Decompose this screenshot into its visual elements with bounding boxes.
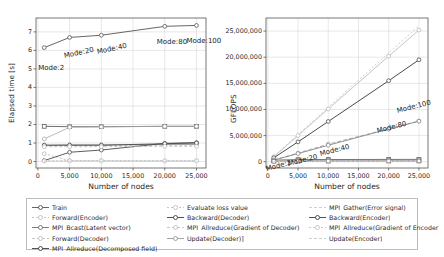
legend-item[interactable]: MPI_Allreduce(Gradient of Encoder) [309, 223, 439, 233]
legend-line-marker-icon [309, 203, 326, 212]
mode-annotation: Mode:80 [157, 38, 187, 46]
data-point [195, 144, 199, 148]
mode-annotation: Mode:100 [186, 37, 221, 45]
data-point [387, 79, 391, 83]
data-point [68, 125, 72, 129]
y-tick-label: 6 [0, 46, 32, 54]
legend-item[interactable]: MPI_Allreduce(Gradient of Decoder) [167, 223, 315, 233]
data-point [417, 58, 421, 62]
legend-item[interactable]: Update(Decoder)] [167, 233, 315, 243]
legend-line-marker-icon [32, 203, 49, 212]
legend-line-marker-icon [309, 234, 326, 243]
y-tick-label: 1 [0, 139, 32, 147]
y-tick-label: 5,000,000 [222, 132, 262, 140]
legend-line-marker-icon [167, 223, 184, 232]
y-tick-label: 20,000,000 [222, 53, 262, 61]
y-tick-label: 2 [0, 120, 32, 128]
y-tick-label: 0 [222, 158, 262, 166]
series-line [44, 126, 196, 139]
y-tick-label: 10,000,000 [222, 105, 262, 113]
legend-line-marker-icon [167, 213, 184, 222]
data-point [195, 124, 199, 128]
legend-item[interactable]: Forward(Decoder) [32, 233, 172, 243]
legend-line-marker-icon [309, 213, 326, 222]
legend-item[interactable]: MPI_Allreduce(Decomposed field) [32, 244, 172, 254]
legend-line-marker-icon [309, 223, 326, 232]
y-tick-label: 5 [0, 65, 32, 73]
data-point [417, 28, 421, 32]
legend-line-marker-icon [167, 203, 184, 212]
data-point [195, 24, 199, 28]
legend-label: MPI_Allreduce(Decomposed field) [52, 245, 157, 252]
data-point [163, 24, 167, 28]
legend-label: MPI_Allreduce(Gradient of Decoder) [187, 224, 300, 231]
legend-label: MPI_Allreduce(Gradient of Encoder) [329, 224, 439, 231]
y-tick-label: 25,000,000 [222, 27, 262, 35]
legend-label: MPI_Bcast(Latent vector) [52, 224, 131, 231]
legend-line-marker-icon [32, 234, 49, 243]
legend-label: Forward(Encoder) [52, 214, 108, 221]
legend-label: Evaluate loss value [187, 204, 248, 211]
series-line [274, 30, 419, 157]
data-point [42, 124, 46, 128]
legend-line-marker-icon [32, 213, 49, 222]
legend-column: TrainForward(Encoder)MPI_Bcast(Latent ve… [32, 202, 172, 254]
legend-item[interactable]: Update(Encoder) [309, 233, 439, 243]
legend-column: Evaluate loss valueBackward(Decoder)MPI_… [167, 202, 315, 244]
legend-line-marker-icon [32, 244, 49, 253]
data-point [99, 145, 103, 149]
panel-gflops: GFLOPS Number of nodes 05,000,00010,000,… [222, 0, 444, 200]
data-point [163, 144, 167, 148]
legend-label: Forward(Decoder) [52, 235, 109, 242]
legend-item[interactable]: Backward(Encoder) [309, 212, 439, 222]
data-point [68, 36, 72, 40]
legend-label: Train [52, 204, 67, 211]
legend-column: MPI_Gather(Error signal)Backward(Encoder… [309, 202, 439, 244]
legend-label: Update(Decoder)] [187, 235, 244, 242]
legend-item[interactable]: Evaluate loss value [167, 202, 315, 212]
data-point [42, 137, 46, 141]
data-point [296, 134, 300, 138]
panel-elapsed-time: Elapsed time [s] Number of nodes 0123456… [0, 0, 222, 200]
x-tick-label: 25,000 [176, 172, 216, 180]
data-point [326, 120, 330, 124]
data-point [42, 152, 46, 156]
data-point [99, 33, 103, 37]
legend-item[interactable]: Forward(Encoder) [32, 212, 172, 222]
legend-label: Update(Encoder) [329, 235, 382, 242]
data-point [68, 150, 72, 154]
legend-label: MPI_Gather(Error signal) [329, 204, 406, 211]
data-point [296, 152, 300, 156]
data-point [68, 145, 72, 149]
y-tick-label: 4 [0, 83, 32, 91]
data-point [296, 140, 300, 144]
data-point [42, 46, 46, 50]
data-point [99, 125, 103, 129]
legend-label: Backward(Decoder) [187, 214, 249, 221]
data-point [42, 145, 46, 149]
series-line [44, 154, 196, 161]
data-point [417, 119, 421, 123]
x-axis-label-left: Number of nodes [36, 182, 206, 191]
figure-canvas: Elapsed time [s] Number of nodes 0123456… [0, 0, 444, 257]
data-point [417, 159, 421, 163]
x-axis-label-right: Number of nodes [266, 182, 428, 191]
legend-item[interactable]: Backward(Decoder) [167, 212, 315, 222]
data-point [163, 124, 167, 128]
legend-item[interactable]: MPI_Gather(Error signal) [309, 202, 439, 212]
legend-line-marker-icon [32, 223, 49, 232]
y-tick-label: 3 [0, 102, 32, 110]
legend-item[interactable]: Train [32, 202, 172, 212]
legend-item[interactable]: MPI_Bcast(Latent vector) [32, 223, 172, 233]
mode-annotation: Mode:2 [38, 64, 64, 72]
legend-label: Backward(Encoder) [329, 214, 390, 221]
y-tick-label: 15,000,000 [222, 79, 262, 87]
legend-box: TrainForward(Encoder)MPI_Bcast(Latent ve… [26, 198, 418, 250]
y-tick-label: 7 [0, 28, 32, 36]
legend-line-marker-icon [167, 234, 184, 243]
series-line [274, 26, 419, 157]
data-point [326, 107, 330, 111]
x-tick-label: 25,000 [399, 172, 439, 180]
data-point [387, 54, 391, 58]
y-tick-label: 0 [0, 158, 32, 166]
